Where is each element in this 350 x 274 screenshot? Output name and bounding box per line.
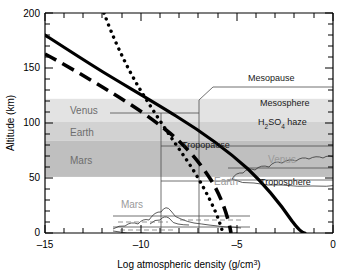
band-label-venus: Venus bbox=[70, 105, 98, 116]
x-tick-label-neg10: –10 bbox=[133, 239, 150, 250]
band-label-mars: Mars bbox=[70, 155, 92, 166]
band-label-earth: Earth bbox=[70, 127, 94, 138]
haze-so: SO bbox=[268, 117, 281, 127]
annotation-mesopause: Mesopause bbox=[248, 73, 295, 83]
annotation-cloud-venus: Venus bbox=[268, 154, 296, 165]
x-tick-label-neg15: –15 bbox=[37, 239, 54, 250]
atmospheric-density-chart: 0 50 100 150 200 –15 –10 –5 0 Altitude (… bbox=[0, 0, 350, 274]
annotation-tropopause: Tropopause bbox=[182, 140, 230, 150]
annotation-mesosphere: Mesosphere bbox=[260, 98, 310, 108]
x-tick-label-neg5: –5 bbox=[231, 239, 243, 250]
y-axis-title: Altitude (km) bbox=[5, 95, 16, 151]
x-axis-title-main: Log atmospheric density (g/cm bbox=[117, 259, 253, 270]
x-tick-label-0: 0 bbox=[330, 239, 336, 250]
haze-word: haze bbox=[285, 117, 307, 127]
annotation-troposphere: Troposphere bbox=[260, 177, 311, 187]
y-tick-label-200: 200 bbox=[23, 8, 40, 19]
figure-container: 0 50 100 150 200 –15 –10 –5 0 Altitude (… bbox=[0, 0, 350, 274]
annotation-cloud-mars: Mars bbox=[121, 199, 143, 210]
y-tick-label-0: 0 bbox=[34, 227, 40, 238]
annotation-cloud-earth: Earth bbox=[214, 176, 238, 187]
y-tick-label-150: 150 bbox=[23, 62, 40, 73]
y-tick-label-50: 50 bbox=[29, 172, 41, 183]
y-tick-label-100: 100 bbox=[23, 117, 40, 128]
x-axis-title: Log atmospheric density (g/cm3) bbox=[117, 259, 260, 271]
x-axis-title-tail: ) bbox=[257, 259, 260, 270]
